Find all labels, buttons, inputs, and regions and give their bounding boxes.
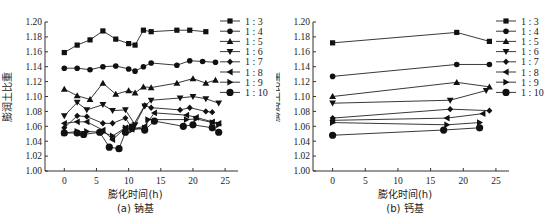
marker-square: [187, 28, 192, 33]
marker-triangle-left: [151, 109, 157, 116]
chart-caption: (b) 钙基: [386, 202, 423, 214]
legend: 1 : 31 : 41 : 51 : 61 : 71 : 81 : 91 : 1…: [220, 16, 268, 98]
marker-square: [62, 50, 67, 55]
marker-triangle-up: [125, 87, 132, 93]
marker-triangle-up: [140, 83, 147, 89]
marker-diamond: [227, 59, 233, 65]
marker-triangle-down: [83, 107, 90, 113]
x-tick-label: 15: [156, 176, 166, 186]
marker-circle-large: [440, 126, 447, 133]
x-tick-label: 20: [459, 176, 469, 186]
legend: 1 : 31 : 41 : 51 : 61 : 71 : 81 : 91 : 1…: [496, 16, 544, 98]
legend-item: 1 : 10: [220, 87, 268, 98]
marker-square: [149, 29, 154, 34]
marker-circle-large: [189, 121, 196, 128]
marker-triangle-right: [503, 79, 509, 86]
series-line: [333, 64, 490, 76]
marker-circle: [113, 63, 119, 69]
marker-diamond: [110, 120, 116, 126]
x-tick-label: 15: [426, 176, 436, 186]
y-tick-label: 1.20: [25, 17, 42, 27]
y-tick-label: 1.08: [293, 107, 310, 117]
marker-circle-large: [141, 126, 148, 133]
series-line: [333, 32, 490, 42]
series-line: [333, 91, 487, 104]
marker-square: [113, 37, 118, 42]
marker-circle-large: [151, 117, 158, 124]
series-15: [329, 79, 493, 99]
marker-circle: [141, 64, 147, 70]
series-line: [64, 61, 215, 71]
x-tick-label: 20: [188, 176, 198, 186]
marker-diamond: [148, 104, 154, 110]
marker-triangle-left: [74, 118, 80, 125]
marker-triangle-down: [61, 113, 68, 119]
y-tick-label: 1.00: [25, 166, 42, 176]
y-tick-label: 1.06: [293, 122, 310, 132]
marker-square: [132, 42, 137, 47]
marker-circle-large: [122, 129, 129, 136]
series-110: [329, 124, 483, 139]
marker-circle-large: [115, 145, 122, 152]
marker-circle: [227, 28, 233, 34]
marker-circle: [148, 60, 154, 66]
marker-circle: [62, 65, 68, 71]
marker-triangle-up: [74, 92, 81, 98]
x-axis-label: 膨化时间(h): [378, 188, 432, 200]
marker-circle-large: [476, 124, 483, 131]
y-tick-label: 1.02: [25, 151, 42, 161]
x-tick-label: 10: [124, 176, 134, 186]
y-tick-label: 1.16: [25, 47, 42, 57]
marker-diamond: [503, 59, 509, 65]
marker-circle: [330, 74, 336, 80]
marker-square: [126, 41, 131, 46]
legend-item: 1 : 10: [496, 87, 544, 98]
marker-square: [330, 40, 335, 45]
marker-circle: [132, 68, 138, 74]
y-tick-label: 1.08: [25, 107, 42, 117]
y-tick-label: 1.14: [293, 62, 310, 72]
marker-circle: [74, 65, 80, 71]
marker-triangle-left: [83, 118, 89, 125]
series-14: [62, 58, 219, 74]
x-tick-label: 10: [393, 176, 403, 186]
marker-triangle-up: [212, 77, 219, 83]
series-line: [333, 114, 483, 121]
marker-diamond: [122, 115, 128, 121]
y-tick-label: 1.10: [293, 92, 310, 102]
y-tick-label: 1.16: [293, 47, 310, 57]
x-tick-label: 5: [94, 176, 99, 186]
y-tick-label: 1.10: [25, 92, 42, 102]
marker-square: [141, 28, 146, 33]
marker-triangle-left: [479, 110, 485, 117]
y-tick-label: 1.14: [25, 62, 42, 72]
chart-panel-sodium: 1.001.021.041.061.081.101.121.141.161.18…: [0, 0, 276, 222]
marker-circle-large: [61, 129, 68, 136]
marker-circle-large: [329, 132, 336, 139]
marker-diamond: [203, 108, 209, 114]
marker-triangle-up: [100, 80, 107, 86]
x-tick-label: 25: [220, 176, 230, 186]
marker-triangle-left: [227, 69, 233, 76]
line-chart-sodium: 1.001.021.041.061.081.101.121.141.161.18…: [0, 0, 276, 222]
marker-diamond: [142, 102, 148, 108]
marker-diamond: [187, 104, 193, 110]
marker-circle-large: [226, 89, 233, 96]
marker-triangle-up: [190, 75, 197, 81]
marker-diamond: [100, 120, 106, 126]
marker-diamond: [177, 107, 183, 113]
series-line: [333, 82, 490, 96]
marker-square: [487, 39, 492, 44]
series-19: [330, 119, 483, 128]
marker-triangle-down: [329, 101, 336, 107]
marker-triangle-right: [227, 79, 233, 86]
marker-square: [203, 29, 208, 34]
marker-triangle-up: [453, 79, 460, 85]
marker-circle-large: [96, 129, 103, 136]
marker-square: [75, 42, 80, 47]
marker-diamond: [447, 106, 453, 112]
series-15: [61, 75, 219, 102]
marker-circle: [174, 62, 180, 68]
marker-circle-large: [128, 123, 135, 130]
marker-square: [227, 18, 232, 23]
